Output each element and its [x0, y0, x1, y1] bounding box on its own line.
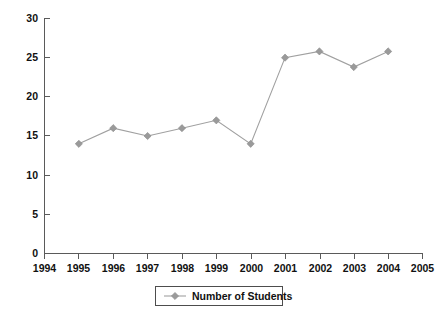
x-tick-label-2005: 2005	[411, 262, 435, 274]
x-tick-label-1996: 1996	[102, 262, 126, 274]
x-tick-label-2004: 2004	[377, 262, 401, 274]
x-tick-label-1997: 1997	[136, 262, 160, 274]
y-tick-label-25: 25	[26, 51, 38, 63]
x-tick-label-2000: 2000	[240, 262, 264, 274]
chart-legend: Number of Students	[156, 287, 293, 306]
y-tick-label-0: 0	[32, 247, 38, 259]
x-tick-label-1995: 1995	[67, 262, 91, 274]
y-tick-label-5: 5	[32, 208, 38, 220]
x-tick-label-2001: 2001	[274, 262, 298, 274]
y-tick-label-20: 20	[26, 90, 38, 102]
x-tick-label-2003: 2003	[343, 262, 367, 274]
line-chart: 30 25 20 15 10 5 0 1994 1995 1996 1997	[0, 0, 438, 314]
y-tick-label-10: 10	[26, 169, 38, 181]
x-tick-label-2002: 2002	[309, 262, 333, 274]
legend-label-number-of-students: Number of Students	[192, 290, 292, 302]
chart-svg: 30 25 20 15 10 5 0 1994 1995 1996 1997	[0, 0, 438, 314]
x-tick-label-1994: 1994	[33, 262, 57, 274]
x-tick-label-1999: 1999	[205, 262, 229, 274]
y-tick-label-30: 30	[26, 12, 38, 24]
y-tick-label-15: 15	[26, 129, 38, 141]
x-tick-label-1998: 1998	[171, 262, 195, 274]
